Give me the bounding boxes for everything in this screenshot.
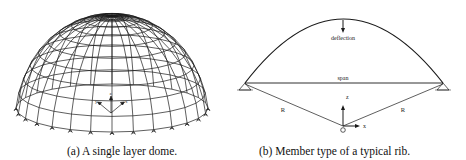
dome-lattice bbox=[16, 13, 208, 132]
origin-marker bbox=[341, 128, 346, 133]
dome-x-label: x bbox=[125, 99, 128, 104]
radius-right-label: R bbox=[401, 106, 406, 113]
figure: z y x deflection span R R z x (a) A sing… bbox=[0, 0, 466, 160]
figure-canvas: z y x deflection span R R z x bbox=[0, 0, 466, 160]
dome-axis-triad bbox=[98, 96, 125, 113]
caption-a: (a) A single layer dome. bbox=[67, 145, 177, 157]
span-label: span bbox=[338, 75, 349, 81]
caption-b: (b) Member type of a typical rib. bbox=[259, 145, 410, 157]
radius-left-label: R bbox=[281, 106, 286, 113]
dome-y-label: y bbox=[95, 99, 98, 104]
z-axis-label: z bbox=[346, 94, 349, 100]
radius-left-line bbox=[245, 84, 343, 126]
radius-right-line bbox=[343, 84, 443, 126]
x-axis-label: x bbox=[363, 123, 366, 129]
deflection-label: deflection bbox=[331, 35, 355, 41]
